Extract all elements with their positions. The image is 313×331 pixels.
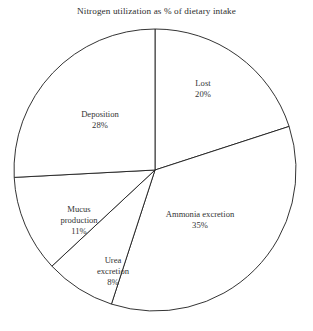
slice-label-ammonia-excretion-name: Ammonia excretion — [166, 209, 235, 219]
slice-label-mucus-production-value: 11% — [60, 227, 97, 238]
slice-label-urea-excretion-line2: excretion — [97, 266, 129, 276]
pie-chart-figure: Nitrogen utilization as % of dietary int… — [0, 0, 313, 331]
slice-label-deposition-name: Deposition — [81, 109, 119, 119]
slice-label-ammonia-excretion-value: 35% — [166, 220, 235, 231]
slice-label-urea-excretion-line1: Urea — [105, 255, 122, 265]
slice-label-mucus-production-line1: Mucus — [67, 204, 90, 214]
slice-label-lost-value: 20% — [195, 89, 211, 100]
slice-label-deposition-value: 28% — [81, 120, 119, 131]
slice-label-urea-excretion: Urea excretion 8% — [97, 255, 129, 289]
slice-label-lost-name: Lost — [195, 78, 210, 88]
slice-label-mucus-production: Mucus production 11% — [60, 204, 97, 238]
slice-label-lost: Lost 20% — [195, 78, 211, 100]
slice-label-urea-excretion-value: 8% — [97, 278, 129, 289]
slice-label-mucus-production-line2: production — [60, 215, 97, 225]
pie-slice-deposition — [14, 29, 155, 177]
slice-label-ammonia-excretion: Ammonia excretion 35% — [166, 209, 235, 231]
pie-chart-graphic — [0, 0, 313, 331]
slice-label-deposition: Deposition 28% — [81, 109, 119, 131]
pie-slice-group — [14, 29, 296, 311]
